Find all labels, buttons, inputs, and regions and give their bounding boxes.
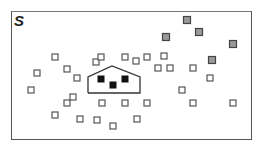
empty-square	[110, 123, 116, 129]
house-shape	[88, 66, 140, 93]
empty-square	[74, 75, 80, 81]
black-square	[110, 82, 117, 89]
empty-square	[161, 53, 167, 59]
empty-square	[122, 54, 128, 60]
empty-square	[122, 100, 128, 106]
empty-square	[190, 65, 196, 71]
gray-square	[163, 34, 170, 41]
empty-square	[230, 100, 236, 106]
empty-square	[134, 116, 140, 122]
empty-square	[64, 100, 70, 106]
empty-square	[52, 54, 58, 60]
empty-square	[144, 54, 150, 60]
black-square	[122, 76, 129, 83]
empty-square	[94, 117, 100, 123]
empty-square	[52, 112, 58, 118]
empty-square	[28, 87, 34, 93]
empty-square	[207, 75, 213, 81]
black-square	[98, 76, 105, 83]
empty-square	[34, 70, 40, 76]
gray-square	[196, 29, 203, 36]
empty-square	[98, 54, 104, 60]
empty-square	[144, 100, 150, 106]
gray-square	[209, 57, 216, 64]
empty-square	[64, 66, 70, 72]
empty-square	[155, 65, 161, 71]
empty-square	[133, 58, 139, 64]
empty-square	[77, 116, 83, 122]
empty-square	[179, 87, 185, 93]
empty-square	[70, 94, 76, 100]
gray-square	[184, 17, 191, 24]
gray-square	[230, 41, 237, 48]
empty-square	[190, 100, 196, 106]
empty-square	[167, 65, 173, 71]
empty-square	[99, 100, 105, 106]
scatter-layer	[0, 0, 265, 151]
